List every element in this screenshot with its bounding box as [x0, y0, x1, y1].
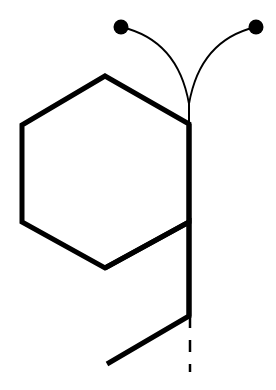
diagram-canvas	[0, 0, 276, 390]
left-dot-terminus	[114, 20, 129, 35]
background	[0, 0, 276, 390]
right-dot-terminus	[249, 20, 264, 35]
